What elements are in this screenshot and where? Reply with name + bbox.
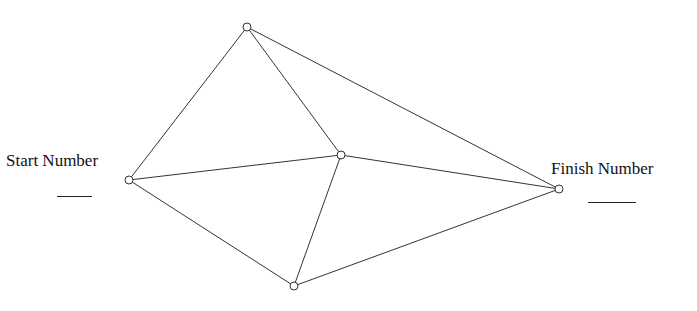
start-number-label: Start Number [6, 151, 98, 171]
edge-bottom-right [294, 189, 559, 286]
start-number-blank[interactable] [57, 196, 92, 197]
node-left [125, 176, 133, 184]
edge-top-center [247, 27, 341, 155]
edge-left-center [129, 155, 341, 180]
node-right [555, 185, 563, 193]
node-top [243, 23, 251, 31]
graph-diagram [0, 0, 697, 311]
finish-number-blank[interactable] [588, 202, 636, 203]
edge-left-bottom [129, 180, 294, 286]
node-center [337, 151, 345, 159]
edge-center-bottom [294, 155, 341, 286]
finish-number-label: Finish Number [551, 159, 653, 179]
node-bottom [290, 282, 298, 290]
edge-left-top [129, 27, 247, 180]
